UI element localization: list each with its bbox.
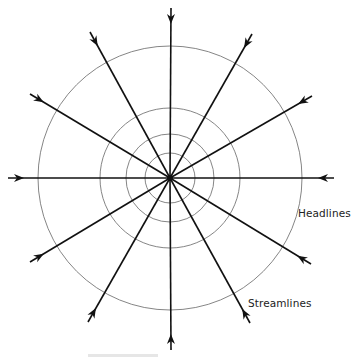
figure-caption-cropped: [88, 354, 158, 357]
arrowhead-icon: [87, 308, 95, 319]
arrowhead-icon: [33, 94, 44, 103]
arrowhead-icon: [297, 256, 308, 265]
headlines-label: Headlines: [298, 207, 351, 219]
arrowhead-icon: [33, 254, 44, 263]
streamline: [170, 178, 171, 350]
sink-center: [167, 175, 173, 181]
arrowhead-icon: [298, 96, 309, 104]
arrowhead-icon: [244, 37, 252, 48]
streamline: [170, 8, 171, 178]
streamline: [88, 178, 170, 322]
streamline: [170, 178, 311, 264]
streamline: [90, 32, 170, 178]
streamline: [30, 94, 170, 178]
streamline: [170, 34, 252, 178]
streamline: [170, 96, 312, 178]
streamline: [170, 178, 250, 323]
streamline: [30, 178, 170, 262]
streamlines-label: Streamlines: [248, 297, 312, 309]
